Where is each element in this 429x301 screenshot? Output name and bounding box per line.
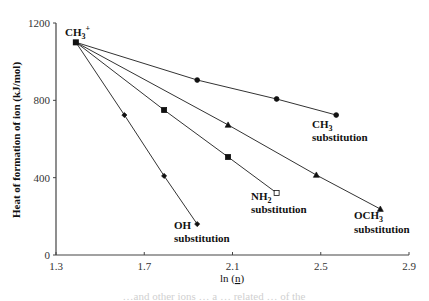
data-point-nh2-substitution: [274, 190, 279, 195]
series-line-oh-substitution: [76, 42, 197, 224]
x-tick-label: 2.1: [226, 260, 240, 272]
data-point-och3-substitution: [313, 172, 319, 177]
origin-label-sup: +: [86, 24, 91, 33]
x-tick-label: 1.7: [137, 260, 151, 272]
y-tick-label: 800: [34, 94, 51, 106]
annotation-ch3-line2: substitution: [312, 131, 368, 143]
data-point-ch3-substitution: [334, 113, 339, 118]
y-axis-title: Heat of formation of ion (kJ/mol): [10, 62, 23, 218]
data-point-nh2-substitution: [226, 154, 231, 159]
origin-label: CH3+: [65, 24, 91, 41]
annotation-ch3-main: CH: [312, 118, 329, 130]
x-tick-label: 2.9: [402, 260, 416, 272]
x-axis-title-main: ln (: [220, 272, 235, 285]
annotation-nh2-main: NH: [251, 190, 268, 202]
data-point-origin: [73, 39, 79, 45]
annotation-och3-line2: substitution: [354, 223, 410, 235]
data-point-oh-substitution: [122, 112, 127, 117]
x-tick-label: 1.3: [49, 260, 63, 272]
x-tick-label: 2.5: [314, 260, 328, 272]
caption-fragment: …and other ions … a … related … of the: [123, 290, 306, 301]
series-line-ch3-substitution: [76, 42, 336, 115]
annotation-oh-line2: substitution: [174, 232, 230, 244]
series-line-nh2-substitution: [76, 42, 277, 193]
data-point-och3-substitution: [225, 122, 231, 127]
data-point-nh2-substitution: [162, 108, 167, 113]
annotation-nh2-line2: substitution: [251, 203, 307, 215]
x-axis-title: ln (n): [220, 272, 244, 285]
x-axis-title-close: ): [240, 272, 244, 285]
origin-label-sub: 3: [82, 32, 86, 41]
data-point-ch3-substitution: [274, 97, 279, 102]
y-tick-label: 400: [34, 172, 51, 184]
origin-label-main: CH: [65, 26, 82, 38]
y-ticks: 04008001200: [28, 17, 56, 261]
y-tick-label: 1200: [28, 17, 51, 29]
annotation-oh: OH: [174, 219, 192, 231]
annotation-och3-main: OCH: [354, 209, 380, 221]
data-point-ch3-substitution: [195, 78, 200, 83]
chart: 04008001200 1.31.72.12.52.9 Heat of form…: [0, 0, 429, 301]
annotation-och3: OCH3: [354, 209, 383, 224]
